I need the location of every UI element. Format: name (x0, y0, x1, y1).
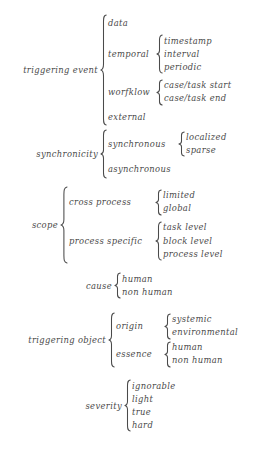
sub-temporal: timestamp interval periodic (156, 34, 212, 74)
leaf-case-task-start: case/task start (164, 79, 231, 92)
child-external: external (108, 110, 231, 124)
taxonomy-diagram: triggering event data temporal timestamp… (0, 0, 258, 455)
children-scope: cross process limited global process spe… (69, 186, 223, 264)
group-label-triggering-event: triggering event (6, 65, 100, 75)
group-synchronicity: synchronicity synchronous localized spar… (18, 129, 227, 179)
child-cross-process: cross process limited global (69, 189, 223, 216)
leaf-essence-human: human (172, 341, 223, 354)
group-severity: severity ignorable light true hard (76, 379, 176, 432)
brace-level1-severity (124, 379, 131, 432)
child-label-process-specific: process specific (69, 236, 155, 246)
leaves-synchronous: localized sparse (186, 131, 227, 157)
sub-worfklow: case/task start case/task end (156, 79, 231, 106)
child-label-origin: origin (116, 321, 164, 331)
sub-essence: human non human (164, 341, 223, 368)
child-origin: origin systemic environmental (116, 313, 238, 340)
leaves-worfklow: case/task start case/task end (164, 79, 231, 105)
brace-level1-cause (114, 272, 121, 299)
child-essence: essence human non human (116, 341, 238, 368)
brace-level2-origin (164, 313, 171, 340)
brace-level2-temporal (156, 34, 163, 74)
leaf-block-level: block level (163, 235, 223, 248)
child-label-light: light (132, 394, 153, 404)
group-label-severity: severity (76, 401, 124, 411)
brace-level2-process-specific (155, 221, 162, 261)
child-synchronous: synchronous localized sparse (108, 132, 227, 157)
child-ignorable: ignorable (132, 379, 176, 392)
child-light: light (132, 392, 176, 405)
child-label-cross-process: cross process (69, 197, 155, 207)
sub-process-specific: task level block level process level (155, 221, 223, 261)
brace-level2-essence (164, 341, 171, 368)
children-triggering-object: origin systemic environmental essence (116, 312, 238, 368)
child-label-asynchronous: asynchronous (108, 164, 171, 174)
child-label-data: data (108, 18, 128, 28)
child-human: human (122, 272, 173, 285)
child-data: data (108, 16, 231, 30)
child-label-essence: essence (116, 349, 164, 359)
leaf-case-task-end: case/task end (164, 92, 231, 105)
brace-level1-synchronicity (100, 129, 107, 179)
group-label-scope: scope (22, 220, 60, 230)
group-label-triggering-object: triggering object (14, 335, 108, 345)
leaf-periodic: periodic (164, 61, 212, 74)
leaf-task-level: task level (163, 221, 223, 234)
leaf-interval: interval (164, 48, 212, 61)
child-worfklow: worfklow case/task start case/task end (108, 79, 231, 106)
group-cause: cause human non human (80, 272, 173, 299)
leaf-localized: localized (186, 131, 227, 144)
sub-cross-process: limited global (155, 189, 195, 216)
leaves-origin: systemic environmental (172, 313, 238, 339)
child-non-human: non human (122, 286, 173, 299)
child-hard: hard (132, 419, 176, 432)
brace-level2-cross-process (155, 189, 162, 216)
brace-level1-triggering-event (100, 14, 107, 126)
child-true: true (132, 406, 176, 419)
brace-level2-synchronous (178, 131, 185, 157)
sub-origin: systemic environmental (164, 313, 238, 340)
leaf-systemic: systemic (172, 313, 238, 326)
child-temporal: temporal timestamp interval periodic (108, 34, 231, 74)
brace-level1-scope (60, 186, 68, 264)
child-label-synchronous: synchronous (108, 139, 178, 149)
group-label-synchronicity: synchronicity (18, 149, 100, 159)
leaves-essence: human non human (172, 341, 223, 367)
child-asynchronous: asynchronous (108, 162, 227, 176)
leaf-limited: limited (163, 189, 195, 202)
group-triggering-event: triggering event data temporal timestamp… (6, 14, 231, 126)
brace-level1-triggering-object (108, 312, 115, 368)
group-triggering-object: triggering object origin systemic enviro… (14, 312, 238, 368)
child-label-human: human (122, 274, 153, 284)
sub-synchronous: localized sparse (178, 131, 227, 157)
leaf-timestamp: timestamp (164, 35, 212, 48)
leaf-global: global (163, 202, 195, 215)
leaf-essence-non-human: non human (172, 354, 223, 367)
child-label-non-human: non human (122, 287, 173, 297)
child-label-worfklow: worfklow (108, 87, 156, 97)
leaf-process-level: process level (163, 248, 223, 261)
leaves-cross-process: limited global (163, 189, 195, 215)
group-label-cause: cause (80, 281, 114, 291)
child-label-ignorable: ignorable (132, 381, 176, 391)
group-scope: scope cross process limited global proce… (22, 186, 223, 264)
children-severity: ignorable light true hard (132, 379, 176, 432)
leaves-process-specific: task level block level process level (163, 221, 223, 261)
child-label-hard: hard (132, 420, 153, 430)
children-triggering-event: data temporal timestamp interval periodi… (108, 14, 231, 126)
children-cause: human non human (122, 272, 173, 299)
child-label-true: true (132, 407, 151, 417)
child-label-external: external (108, 112, 146, 122)
child-process-specific: process specific task level block level … (69, 221, 223, 261)
leaf-environmental: environmental (172, 326, 238, 339)
brace-level2-worfklow (156, 79, 163, 106)
leaf-sparse: sparse (186, 144, 227, 157)
children-synchronicity: synchronous localized sparse asynchronou… (108, 129, 227, 179)
leaves-temporal: timestamp interval periodic (164, 35, 212, 75)
child-label-temporal: temporal (108, 49, 156, 59)
